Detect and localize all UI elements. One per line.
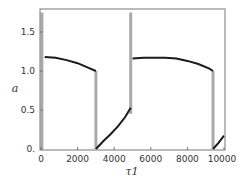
x-axis-label: τ1	[125, 165, 138, 178]
curve-segment	[45, 57, 96, 71]
x-tick-label: 2000	[66, 154, 89, 164]
curve-segment	[213, 136, 224, 149]
y-tick-label: 1.5	[21, 27, 35, 37]
x-tick-label: 10000	[208, 154, 237, 164]
x-tick-label: 0	[38, 154, 44, 164]
x-tick-label: 6000	[139, 154, 162, 164]
plot-series	[42, 13, 224, 150]
plot-frame	[40, 9, 225, 150]
line-chart: 0200040006000800010000 0.0.51.01.5 τ1 a	[0, 0, 246, 181]
x-tick-label: 8000	[176, 154, 199, 164]
y-tick-label: 0.	[26, 144, 35, 154]
y-tick-label: 0.5	[21, 105, 35, 115]
curve-segment	[133, 58, 214, 71]
y-axis-label: a	[12, 82, 19, 95]
curve-segment	[96, 108, 131, 149]
y-tick-label: 1.0	[21, 66, 36, 76]
x-tick-label: 4000	[103, 154, 126, 164]
